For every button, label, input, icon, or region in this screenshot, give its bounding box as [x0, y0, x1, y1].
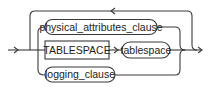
- node-label: logging_clause: [45, 68, 115, 80]
- node-label: TABLESPACE: [43, 44, 110, 56]
- node-label: physical_attributes_clause: [39, 21, 162, 33]
- railroad-diagram: physical_attributes_clause TABLESPACE ta…: [0, 0, 210, 90]
- node-logging-clause: logging_clause: [45, 67, 115, 82]
- node-tablespace-keyword: TABLESPACE: [43, 41, 110, 59]
- entry-line: [8, 47, 30, 53]
- node-tablespace: tablespace: [121, 42, 172, 58]
- node-label: tablespace: [121, 44, 172, 56]
- node-physical-attributes-clause: physical_attributes_clause: [39, 20, 162, 35]
